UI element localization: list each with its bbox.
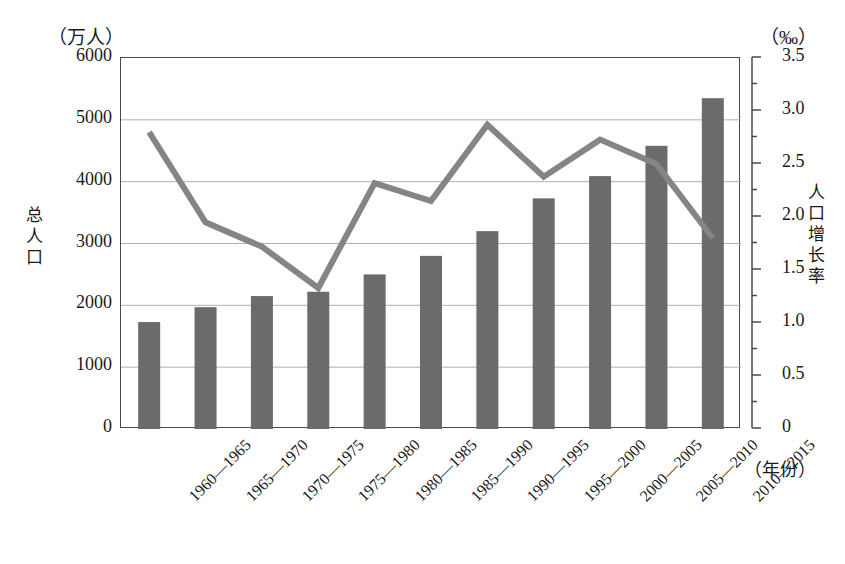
x-axis-tick-labels: 1960—19651965—19701970—19751975—19801980…: [0, 0, 845, 564]
x-axis-unit-label: （年份）: [744, 455, 816, 481]
population-growth-chart: （万人） （‰） 总人口 人口增长率 010002000300040005000…: [0, 0, 845, 564]
